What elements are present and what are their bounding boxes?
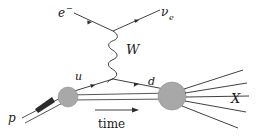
neutrino-label-text: ν xyxy=(161,5,168,19)
electron-line xyxy=(74,13,113,31)
proton-direction-arrow xyxy=(35,97,55,113)
feynman-diagram-figure: e − ν e W u d p X time xyxy=(0,0,257,136)
proton-label: p xyxy=(8,111,16,125)
electron-label-text: e xyxy=(58,6,65,20)
neutrino-line xyxy=(113,10,160,31)
down-quark-line xyxy=(113,79,164,89)
time-axis-arrow xyxy=(95,108,139,113)
time-axis-label: time xyxy=(98,117,125,131)
neutrino-label: ν e xyxy=(161,5,174,22)
electron-superscript-text: − xyxy=(66,4,73,13)
w-boson-propagator xyxy=(107,31,117,83)
neutrino-subscript-text: e xyxy=(169,13,174,22)
time-arrow-head xyxy=(132,108,139,113)
remnant-label: X xyxy=(230,91,241,106)
remnant-blob xyxy=(158,82,186,110)
down-quark-direction-arrow xyxy=(134,83,139,87)
down-quark-label: d xyxy=(148,75,155,88)
w-boson-label: W xyxy=(126,42,141,57)
electron-label: e − xyxy=(58,4,73,20)
proton-blob xyxy=(58,87,78,107)
up-quark-label: u xyxy=(75,70,82,83)
spectator-quark-lines xyxy=(68,93,172,100)
diagram-canvas: e − ν e W u d p X time xyxy=(0,0,257,136)
